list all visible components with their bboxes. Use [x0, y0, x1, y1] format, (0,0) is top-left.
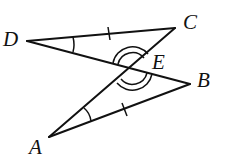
label-A: A	[29, 137, 42, 158]
segment-AC	[49, 28, 175, 137]
label-B: B	[197, 70, 210, 91]
angle-arc-E-lower-outer	[117, 74, 152, 90]
label-D: D	[3, 29, 18, 50]
angle-arc-A	[84, 108, 91, 121]
geometry-diagram: D C E B A	[0, 0, 226, 165]
segment-DC	[27, 28, 175, 41]
tick-mark-DC	[108, 27, 110, 40]
angle-arc-E-lower-inner	[121, 73, 147, 84]
segment-AB	[49, 84, 190, 137]
segment-DB	[27, 41, 190, 84]
angle-arc-D	[73, 37, 74, 52]
label-C: C	[183, 12, 197, 33]
label-E: E	[152, 52, 165, 73]
